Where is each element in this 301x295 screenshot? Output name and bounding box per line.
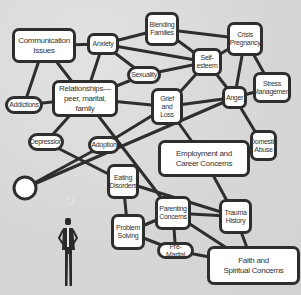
- node-trauma: Trauma History: [219, 199, 252, 234]
- node-crisis: Crisis Pregnancy: [227, 22, 263, 56]
- node-eating: Eating Disorders: [107, 164, 139, 199]
- node-blending: Blending Families: [145, 12, 179, 46]
- person-with-question-icon: ?: [57, 190, 81, 290]
- start-circle-node: [14, 177, 36, 199]
- node-domestic: Domestic Abuse: [250, 130, 277, 161]
- node-premarital: Pre-Marital: [157, 242, 194, 259]
- node-relationships: Relationships— peer, marital, family: [52, 80, 118, 117]
- node-grief: Grief and Loss: [151, 88, 183, 125]
- node-depression: Depression: [28, 133, 64, 151]
- node-adoption: Adoption: [88, 136, 120, 154]
- node-anxiety: Anxiety: [87, 33, 119, 55]
- node-anger: Anger: [222, 86, 247, 109]
- node-faith: Faith and Spiritual Concerns: [207, 246, 300, 285]
- diagram-canvas: Communication IssuesAnxietyBlending Fami…: [0, 0, 301, 295]
- node-addictions: Addictions: [5, 96, 43, 114]
- node-stress: Stress Management: [253, 72, 291, 103]
- node-sexuality: Sexuality: [127, 66, 161, 84]
- node-parenting: Parenting Concerns: [155, 196, 191, 230]
- question-mark: ?: [65, 194, 75, 214]
- node-employment: Employment and Career Concerns: [158, 140, 250, 177]
- person-figure: ?: [57, 190, 81, 290]
- node-communication: Communication Issues: [12, 28, 76, 63]
- node-selfesteem: Self- esteem: [192, 48, 222, 76]
- node-problem: Problem Solving: [111, 214, 145, 250]
